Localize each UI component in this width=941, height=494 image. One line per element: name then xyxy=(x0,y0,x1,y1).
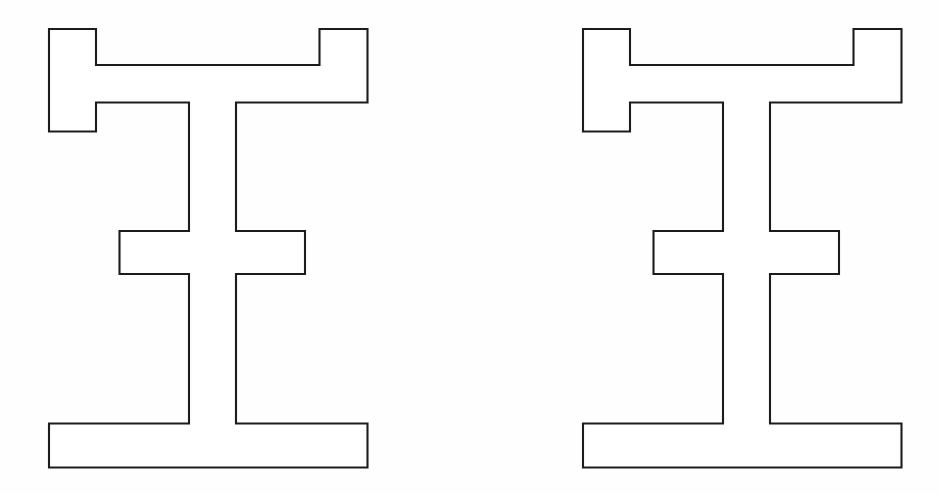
drawing-surface xyxy=(0,0,941,494)
figure-canvas xyxy=(0,0,941,494)
